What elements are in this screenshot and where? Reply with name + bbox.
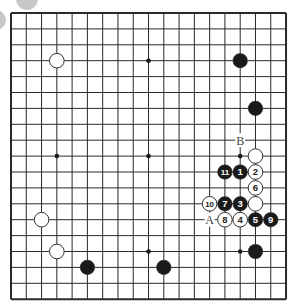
black-stone bbox=[248, 101, 263, 116]
move-number: 9 bbox=[268, 214, 273, 225]
white-stone bbox=[50, 244, 65, 259]
black-stone bbox=[233, 53, 248, 68]
stone-body bbox=[248, 101, 263, 116]
star-point bbox=[146, 58, 151, 63]
black-stone: 7 bbox=[218, 197, 233, 212]
black-stone bbox=[80, 260, 95, 275]
black-stone: 5 bbox=[248, 212, 263, 227]
star-point bbox=[238, 154, 243, 159]
move-number: 11 bbox=[221, 168, 230, 177]
white-stone bbox=[248, 149, 263, 164]
black-stone: 3 bbox=[233, 197, 248, 212]
stone-body bbox=[248, 244, 263, 259]
stone-body bbox=[34, 212, 49, 227]
star-point bbox=[146, 249, 151, 254]
move-number: 7 bbox=[222, 198, 227, 209]
white-stone bbox=[248, 197, 263, 212]
move-number: 6 bbox=[253, 182, 258, 193]
stone-body bbox=[50, 244, 65, 259]
stone-body bbox=[157, 260, 172, 275]
white-stone bbox=[50, 53, 65, 68]
star-point bbox=[146, 154, 151, 159]
move-number: 8 bbox=[222, 214, 227, 225]
white-stone: 4 bbox=[233, 212, 248, 227]
move-number: 4 bbox=[238, 214, 244, 225]
stone-body bbox=[248, 149, 263, 164]
black-stone: 9 bbox=[263, 212, 278, 227]
white-stone bbox=[34, 212, 49, 227]
stone-body bbox=[80, 260, 95, 275]
move-number: 2 bbox=[253, 166, 258, 177]
marker-label-a: A bbox=[205, 213, 214, 227]
stone-body bbox=[248, 197, 263, 212]
stone-body bbox=[233, 53, 248, 68]
black-stone bbox=[248, 244, 263, 259]
star-point bbox=[238, 249, 243, 254]
move-number: 1 bbox=[238, 166, 244, 177]
white-stone: 10 bbox=[202, 197, 217, 212]
marker-label-b: B bbox=[236, 134, 244, 148]
black-stone bbox=[157, 260, 172, 275]
white-stone: 8 bbox=[218, 212, 233, 227]
black-stone: 11 bbox=[218, 165, 233, 180]
move-number: 10 bbox=[205, 200, 214, 209]
move-number: 3 bbox=[238, 198, 243, 209]
star-point bbox=[55, 154, 60, 159]
white-stone: 6 bbox=[248, 181, 263, 196]
move-number: 5 bbox=[253, 214, 259, 225]
go-board: BA1112610738459 bbox=[0, 0, 296, 305]
stone-body bbox=[50, 53, 65, 68]
black-stone: 1 bbox=[233, 165, 248, 180]
white-stone: 2 bbox=[248, 165, 263, 180]
